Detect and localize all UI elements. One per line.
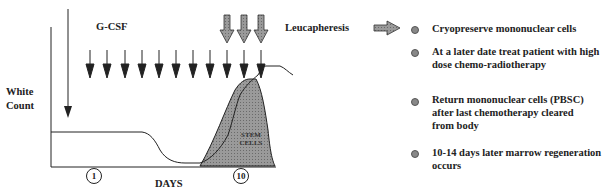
- x-axis-label: DAYS: [155, 178, 183, 189]
- step-3: Return mononuclear cells (PBSC) after la…: [432, 93, 592, 132]
- bullet-icon: [411, 150, 419, 158]
- leucapheresis-label: Leucapheresis: [285, 22, 349, 33]
- bullet-icon: [411, 98, 419, 106]
- leucapheresis-arrow-icon: [220, 15, 234, 43]
- y-axis-label-line2: Count: [6, 100, 34, 111]
- gcsf-arrow-icon: [86, 50, 94, 78]
- process-arrow-icon: [374, 21, 400, 35]
- gcsf-arrow-icon: [121, 50, 129, 78]
- bullet-icon: [411, 49, 419, 57]
- leucapheresis-arrows: [220, 15, 268, 43]
- gcsf-arrow-icon: [172, 50, 180, 78]
- stem-cells-area: [200, 79, 275, 166]
- initial-arrow-icon: [64, 9, 72, 118]
- gcsf-arrow-icon: [240, 50, 248, 78]
- gcsf-arrow-icon: [206, 50, 214, 78]
- leucapheresis-arrow-icon: [254, 15, 268, 43]
- step-4: 10-14 days later marrow regeneration occ…: [432, 146, 616, 172]
- y-axis-label-line1: White: [6, 86, 33, 97]
- day-marker-1: 1: [86, 168, 102, 184]
- gcsf-arrow-icon: [189, 50, 197, 78]
- step-1: Cryopreserve mononuclear cells: [432, 22, 616, 35]
- gcsf-arrow-icon: [138, 50, 146, 78]
- stem-label-line1: STEM: [236, 131, 266, 139]
- stem-cells-label: STEM CELLS: [236, 131, 266, 147]
- gcsf-arrows: [86, 50, 265, 78]
- leucapheresis-arrow-icon: [237, 15, 251, 43]
- bullet-icon: [411, 26, 419, 34]
- step-2: At a later date treat patient with high …: [432, 45, 616, 71]
- day-marker-10: 10: [233, 168, 249, 184]
- gcsf-arrow-icon: [223, 50, 231, 78]
- gcsf-label: G-CSF: [96, 21, 128, 32]
- gcsf-arrow-icon: [155, 50, 163, 78]
- gcsf-arrow-icon: [103, 50, 111, 78]
- stem-label-line2: CELLS: [236, 139, 266, 147]
